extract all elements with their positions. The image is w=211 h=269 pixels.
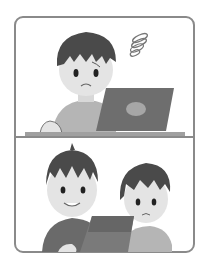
top-panel xyxy=(25,32,185,136)
dizzy-spiral-icon xyxy=(129,32,148,57)
desk xyxy=(25,132,185,136)
boy-hair xyxy=(57,32,116,66)
bottom-panel xyxy=(42,143,172,252)
illustration xyxy=(0,0,211,269)
laptop-logo xyxy=(126,102,146,116)
